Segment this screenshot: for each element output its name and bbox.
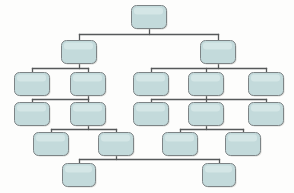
node-highlight <box>65 166 92 173</box>
node-highlight <box>17 75 46 82</box>
tree-node[interactable] <box>163 133 199 157</box>
tree-diagram-canvas <box>0 0 294 193</box>
tree-node[interactable] <box>15 73 51 97</box>
node-highlight <box>251 105 280 112</box>
node-highlight <box>36 135 65 142</box>
tree-node[interactable] <box>62 41 98 65</box>
node-highlight <box>203 43 232 50</box>
tree-diagram-svg <box>0 0 294 193</box>
node-highlight <box>136 105 165 112</box>
node-highlight <box>17 105 46 112</box>
tree-node[interactable] <box>132 6 168 30</box>
node-highlight <box>73 75 102 82</box>
node-highlight <box>165 135 194 142</box>
tree-node[interactable] <box>203 164 237 188</box>
tree-node[interactable] <box>15 103 51 127</box>
tree-node[interactable] <box>189 73 225 97</box>
tree-node[interactable] <box>134 73 170 97</box>
tree-node[interactable] <box>71 73 107 97</box>
tree-node[interactable] <box>201 41 237 65</box>
node-highlight <box>64 43 93 50</box>
tree-node[interactable] <box>99 133 135 157</box>
node-highlight <box>136 75 165 82</box>
tree-node[interactable] <box>249 73 285 97</box>
tree-node[interactable] <box>134 103 170 127</box>
node-highlight <box>191 105 220 112</box>
tree-node[interactable] <box>226 133 262 157</box>
node-highlight <box>73 105 102 112</box>
node-highlight <box>134 8 163 15</box>
tree-node[interactable] <box>249 103 285 127</box>
tree-node[interactable] <box>34 133 70 157</box>
node-highlight <box>251 75 280 82</box>
tree-node[interactable] <box>63 164 97 188</box>
node-highlight <box>228 135 257 142</box>
node-highlight <box>101 135 130 142</box>
tree-node[interactable] <box>71 103 107 127</box>
node-highlight <box>205 166 232 173</box>
tree-node[interactable] <box>189 103 225 127</box>
node-highlight <box>191 75 220 82</box>
